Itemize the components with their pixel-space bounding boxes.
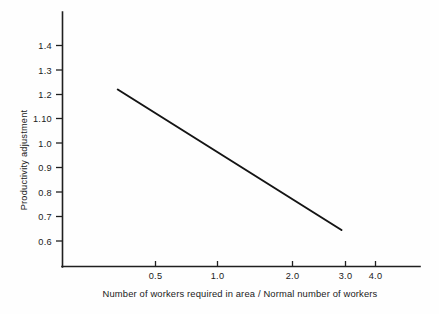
chart-canvas: 1.4 1.3 1.2 1.10 1.0 0.9 0.8 0.7 0.6 0.5… xyxy=(0,0,439,314)
y-tick-label-1.2: 1.2 xyxy=(38,90,52,100)
y-tick-label-0.7: 0.7 xyxy=(38,212,52,222)
chart-figure: 1.4 1.3 1.2 1.10 1.0 0.9 0.8 0.7 0.6 0.5… xyxy=(0,0,439,314)
y-tick-label-1.10: 1.10 xyxy=(33,114,52,124)
y-axis-title: Productivity adjustment xyxy=(19,109,29,210)
x-tick-label-4.0: 4.0 xyxy=(369,271,383,281)
y-tick-label-1.4: 1.4 xyxy=(38,41,52,51)
y-tick-label-0.8: 0.8 xyxy=(38,188,52,198)
y-tick-label-0.6: 0.6 xyxy=(38,237,52,247)
y-tick-label-1.3: 1.3 xyxy=(38,66,52,76)
x-tick-label-0.5: 0.5 xyxy=(149,271,163,281)
data-series-line xyxy=(118,89,342,230)
y-tick-label-0.9: 0.9 xyxy=(38,163,52,173)
x-axis-title: Number of workers required in area / Nor… xyxy=(103,288,378,299)
x-tick-label-3.0: 3.0 xyxy=(339,271,353,281)
x-tick-label-2.0: 2.0 xyxy=(286,271,300,281)
y-tick-label-1.0: 1.0 xyxy=(38,139,52,149)
x-tick-label-1.0: 1.0 xyxy=(211,271,225,281)
